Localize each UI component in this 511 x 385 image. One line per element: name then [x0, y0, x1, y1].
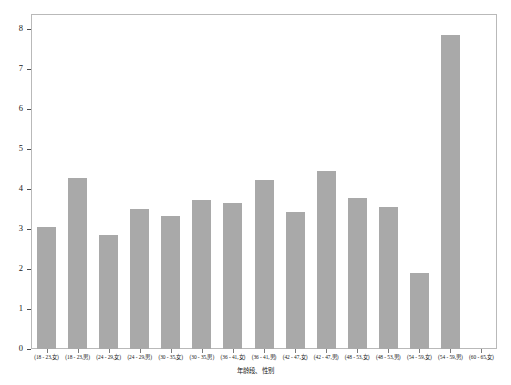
- x-axis-tick-label: (42 - 47,女): [280, 353, 311, 361]
- bar: [379, 207, 398, 349]
- y-axis-tick-label: 5: [19, 142, 23, 155]
- x-axis-tick-label: (60 - 65,女): [466, 353, 497, 361]
- x-axis-tick-label: (18 - 23,女): [31, 353, 62, 361]
- bars-layer: [31, 14, 497, 349]
- bar: [99, 235, 118, 349]
- y-axis-tick-label: 0: [19, 342, 23, 355]
- bar: [317, 171, 336, 349]
- y-axis-tick-label: 1: [19, 302, 23, 315]
- bar: [410, 273, 429, 349]
- bar: [441, 35, 460, 349]
- bar: [255, 180, 274, 349]
- bar: [161, 216, 180, 349]
- x-axis-tick-label: (30 - 35,女): [155, 353, 186, 361]
- y-axis-tick-label: 7: [19, 62, 23, 75]
- y-axis-tick-label: 3: [19, 222, 23, 235]
- bar: [37, 227, 56, 349]
- y-axis-tick-label: 6: [19, 102, 23, 115]
- bar: [223, 203, 242, 349]
- x-axis-title: 年龄段、性别: [0, 366, 511, 375]
- x-axis-tick-label: (30 - 35,男): [186, 353, 217, 361]
- bar: [348, 198, 367, 349]
- y-axis-tick-label: 2: [19, 262, 23, 275]
- x-axis-tick-label: (36 - 41,男): [248, 353, 279, 361]
- x-axis-tick-label: (48 - 53,女): [342, 353, 373, 361]
- y-axis-tick-label: 8: [19, 22, 23, 35]
- x-axis-tick-label: (24 - 29,男): [124, 353, 155, 361]
- bar: [130, 209, 149, 349]
- x-axis-tick-label: (36 - 41,女): [217, 353, 248, 361]
- y-axis-tick-mark: [27, 349, 31, 350]
- x-axis-tick-label: (54 - 59,男): [435, 353, 466, 361]
- bar: [192, 200, 211, 349]
- x-axis-tick-label: (18 - 23,男): [62, 353, 93, 361]
- bar: [286, 212, 305, 349]
- x-axis-tick-label: (54 - 59,女): [404, 353, 435, 361]
- y-axis-tick-label: 4: [19, 182, 23, 195]
- x-axis-tick-label: (48 - 53,男): [373, 353, 404, 361]
- x-axis-tick-label: (42 - 47,男): [311, 353, 342, 361]
- bar-chart: 012345678 (18 - 23,女)(18 - 23,男)(24 - 29…: [0, 0, 511, 385]
- x-axis-tick-label: (24 - 29,女): [93, 353, 124, 361]
- bar: [68, 178, 87, 349]
